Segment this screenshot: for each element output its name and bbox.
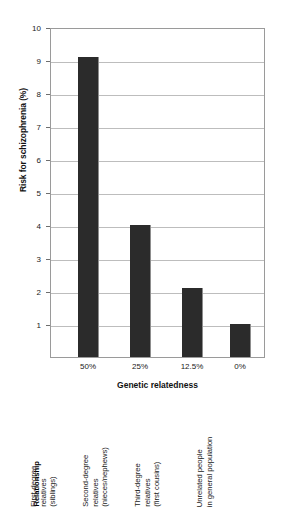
relationship-item-3-line-1: in general population bbox=[204, 436, 214, 507]
relationship-item-third-degree: Third-degree relatives (first cousins) bbox=[133, 462, 162, 507]
relationship-item-0-line-1: relatives bbox=[39, 466, 49, 507]
relationship-item-0-line-2: (siblings) bbox=[48, 466, 58, 507]
relationship-item-1-line-1: relatives bbox=[91, 447, 101, 507]
relationship-item-1-line-2: (nieces/nephews) bbox=[100, 447, 110, 507]
y-tick-label-3: 3 bbox=[37, 255, 41, 264]
y-tick-label-7: 7 bbox=[37, 123, 41, 132]
y-tick-label-10: 10 bbox=[32, 24, 41, 33]
relationship-item-2-line-0: Third-degree bbox=[133, 462, 143, 507]
bar-25-percent bbox=[130, 225, 151, 357]
y-tick-label-6: 6 bbox=[37, 156, 41, 165]
x-axis-title: Genetic relatedness bbox=[50, 380, 265, 390]
relationship-item-unrelated: Unrelated people in general population bbox=[195, 436, 214, 507]
y-tick-label-1: 1 bbox=[37, 321, 41, 330]
y-tick-label-5: 5 bbox=[37, 189, 41, 198]
relationship-item-second-degree: Second-degree relatives (nieces/nephews) bbox=[81, 447, 110, 507]
relationship-item-1-line-0: Second-degree bbox=[81, 447, 91, 507]
relationship-item-first-degree: First-degree relatives (siblings) bbox=[29, 466, 58, 507]
bar-12-5-percent bbox=[182, 288, 203, 357]
x-tick-label-1: 25% bbox=[132, 362, 148, 371]
relationship-item-2-line-2: (first cousins) bbox=[152, 462, 162, 507]
relationship-item-3-line-0: Unrelated people bbox=[195, 436, 205, 507]
x-tick-label-2: 12.5% bbox=[181, 362, 204, 371]
x-tick-label-0: 50% bbox=[80, 362, 96, 371]
y-tick-label-2: 2 bbox=[37, 288, 41, 297]
relationship-legend: Relationship First-degree relatives (sib… bbox=[0, 404, 282, 511]
y-axis-title: Risk for schizophrenia (%) bbox=[18, 55, 28, 225]
relationship-item-0-line-0: First-degree bbox=[29, 466, 39, 507]
x-axis: 50% 25% 12.5% 0% bbox=[50, 362, 265, 378]
y-tick-label-8: 8 bbox=[37, 90, 41, 99]
chart-page: 10 9 8 7 6 5 4 3 2 1 Risk for schizophre… bbox=[0, 0, 282, 511]
y-tick-label-9: 9 bbox=[37, 57, 41, 66]
relationship-item-2-line-1: relatives bbox=[143, 462, 153, 507]
bar-50-percent bbox=[78, 57, 99, 357]
bar-0-percent bbox=[230, 324, 251, 357]
x-tick-label-3: 0% bbox=[234, 362, 246, 371]
plot-area bbox=[50, 28, 265, 358]
y-tick-label-4: 4 bbox=[37, 222, 41, 231]
